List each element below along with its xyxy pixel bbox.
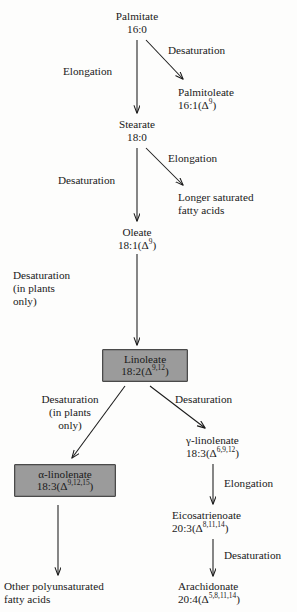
node-arachidonate-formula: 20:4(Δ5,8,11,14) (178, 593, 296, 606)
node-alpha-linolenate-name: α-linolenate (22, 468, 108, 481)
node-gamma-linolenate-name: γ-linolenate (186, 434, 296, 447)
node-palmitoleate-name: Palmitoleate (178, 86, 278, 99)
edge-label-oleate-desaturation-in-plants-only: Desaturation (in plants only) (13, 269, 70, 307)
node-arachidonate: Arachidonate 20:4(Δ5,8,11,14) (178, 580, 296, 605)
node-other-pufa-formula: fatty acids (4, 593, 134, 606)
node-longer-saturated-name: Longer saturated (178, 191, 296, 204)
edge-label-eicosatrienoate-desaturation: Desaturation (224, 549, 281, 562)
node-palmitate: Palmitate 16:0 (97, 10, 177, 35)
node-palmitoleate-formula: 16:1(Δ9) (178, 99, 278, 112)
node-linoleate: Linoleate 18:2(Δ9,12) (102, 349, 188, 382)
edge-label-palmitate-desaturation: Desaturation (168, 44, 225, 57)
pathway-diagram: Palmitate 16:0 Palmitoleate 16:1(Δ9) Ste… (0, 0, 297, 612)
edge-label-linoleate-right-desaturation: Desaturation (175, 393, 232, 406)
node-alpha-linolenate-formula: 18:3(Δ9,12,15) (22, 480, 108, 493)
edge-label-gamma-linolenate-elongation: Elongation (224, 477, 273, 490)
node-palmitate-formula: 16:0 (97, 23, 177, 36)
edge-label-palmitate-elongation: Elongation (63, 65, 112, 78)
node-oleate-name: Oleate (97, 226, 177, 239)
edge-label-linoleate-left-desaturation-in-plants-only: Desaturation (in plants only) (22, 393, 118, 431)
node-eicosatrienoate-formula: 20:3(Δ8,11,14) (172, 522, 296, 535)
node-gamma-linolenate-formula: 18:3(Δ6,9,12) (186, 447, 296, 460)
node-longer-saturated-formula: fatty acids (178, 204, 296, 217)
node-linoleate-formula: 18:2(Δ9,12) (110, 365, 180, 378)
node-stearate-name: Stearate (97, 118, 177, 131)
node-palmitoleate: Palmitoleate 16:1(Δ9) (178, 86, 278, 111)
edge-label-stearate-elongation: Elongation (168, 152, 217, 165)
node-oleate-formula: 18:1(Δ9) (97, 239, 177, 252)
node-longer-saturated-fatty-acids: Longer saturated fatty acids (178, 191, 296, 216)
node-oleate: Oleate 18:1(Δ9) (97, 226, 177, 251)
node-other-polyunsaturated-fatty-acids: Other polyunsaturated fatty acids (4, 580, 134, 605)
node-eicosatrienoate-name: Eicosatrienoate (172, 509, 296, 522)
node-stearate: Stearate 18:0 (97, 118, 177, 143)
node-alpha-linolenate: α-linolenate 18:3(Δ9,12,15) (14, 464, 116, 497)
node-arachidonate-name: Arachidonate (178, 580, 296, 593)
node-palmitate-name: Palmitate (97, 10, 177, 23)
node-other-pufa-name: Other polyunsaturated (4, 580, 134, 593)
node-linoleate-name: Linoleate (110, 353, 180, 366)
node-stearate-formula: 18:0 (97, 131, 177, 144)
node-eicosatrienoate: Eicosatrienoate 20:3(Δ8,11,14) (172, 509, 296, 534)
edge-label-stearate-desaturation: Desaturation (58, 174, 115, 187)
node-gamma-linolenate: γ-linolenate 18:3(Δ6,9,12) (186, 434, 296, 459)
